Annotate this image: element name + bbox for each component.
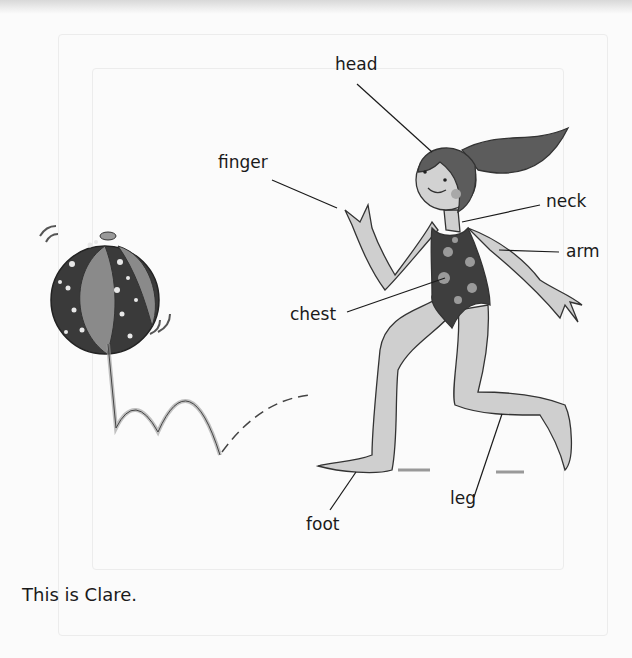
label-neck: neck xyxy=(546,193,586,210)
label-head: head xyxy=(335,56,377,73)
label-arm: arm xyxy=(566,243,600,260)
beach-ball xyxy=(40,226,170,354)
label-leg: leg xyxy=(450,490,476,507)
illustration xyxy=(0,0,632,658)
bounce-trail xyxy=(108,344,220,455)
label-foot: foot xyxy=(306,516,339,533)
label-finger: finger xyxy=(218,154,268,171)
girl-figure xyxy=(318,128,582,473)
label-chest: chest xyxy=(290,306,336,323)
caption: This is Clare. xyxy=(22,584,137,605)
